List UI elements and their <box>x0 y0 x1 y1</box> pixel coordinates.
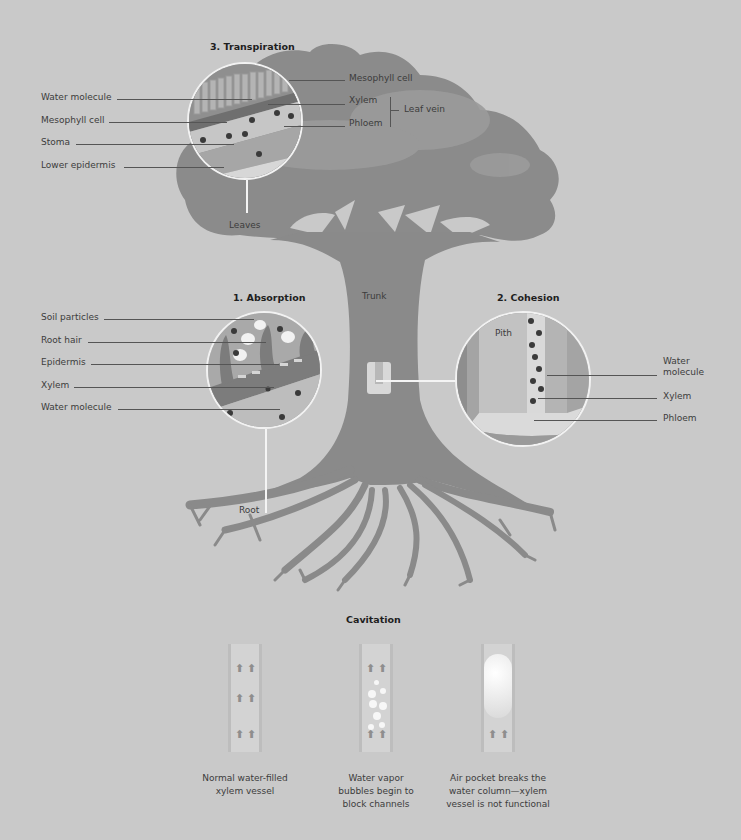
label-mesophyll-cell-right: Mesophyll cell <box>349 73 413 84</box>
label-water-molecule-t: Water molecule <box>41 92 111 103</box>
label-xylem-a: Xylem <box>41 380 69 391</box>
air-pocket <box>484 654 512 718</box>
transpiration-magnifier <box>187 62 303 180</box>
arrow-up-icon: ⬆ <box>378 728 387 741</box>
label-water-molecule-a: Water molecule <box>41 402 111 413</box>
leader-line <box>538 398 657 399</box>
cohesion-magnifier <box>455 311 591 447</box>
leader-line <box>118 409 280 410</box>
caption-line: vessel is not functional <box>433 798 563 811</box>
label-water-molecule-c: Water molecule <box>663 356 703 378</box>
label-xylem-t: Xylem <box>349 95 377 106</box>
label-mesophyll-cell-left: Mesophyll cell <box>41 115 105 126</box>
label-water-molecule-text: Water molecule <box>663 356 703 378</box>
label-leaves: Leaves <box>229 220 260 231</box>
label-lower-epidermis: Lower epidermis <box>41 160 115 171</box>
leader-line <box>74 387 274 388</box>
arrow-up-icon: ⬆ <box>366 728 375 741</box>
label-xylem-c: Xylem <box>663 391 691 402</box>
cohesion-connector-line <box>376 380 456 382</box>
leader-line <box>117 99 252 100</box>
arrow-up-icon: ⬆ <box>378 662 387 675</box>
leader-line <box>76 144 234 145</box>
caption-air-pocket: Air pocket breaks the water column—xylem… <box>433 772 563 811</box>
leader-line <box>289 80 345 81</box>
label-soil-particles: Soil particles <box>41 312 99 323</box>
absorption-title: 1. Absorption <box>233 292 305 303</box>
arrow-up-icon: ⬆ <box>235 662 244 675</box>
caption-line: water column—xylem <box>433 785 563 798</box>
leader-line <box>268 104 345 105</box>
vapor-bubble <box>379 702 387 710</box>
label-stoma: Stoma <box>41 137 70 148</box>
leader-line <box>104 319 254 320</box>
leader-line <box>534 420 657 421</box>
arrow-up-icon: ⬆ <box>247 692 256 705</box>
cavitation-title: Cavitation <box>346 614 401 625</box>
root-cross-section <box>208 313 322 429</box>
vapor-bubble <box>369 700 377 708</box>
transpiration-title: 3. Transpiration <box>210 41 295 52</box>
label-leaf-vein: Leaf vein <box>404 104 445 115</box>
arrow-up-icon: ⬆ <box>488 728 497 741</box>
label-phloem-c: Phloem <box>663 413 696 424</box>
trunk-cross-section <box>457 313 591 447</box>
arrow-up-icon: ⬆ <box>247 728 256 741</box>
leader-line <box>124 167 224 168</box>
vapor-bubble <box>368 690 376 698</box>
leader-line <box>88 342 266 343</box>
leader-line <box>91 364 279 365</box>
label-phloem-t: Phloem <box>349 118 382 129</box>
leader-line <box>390 110 399 111</box>
xylem-vessel-bubbles: ⬆ ⬆ ⬆ ⬆ <box>359 644 393 752</box>
caption-bubbles: Water vapor bubbles begin to block chann… <box>311 772 441 811</box>
leader-line <box>109 122 227 123</box>
label-pith: Pith <box>495 328 512 339</box>
xylem-vessel-air-pocket: ⬆ ⬆ <box>481 644 515 752</box>
arrow-up-icon: ⬆ <box>366 662 375 675</box>
arrow-up-icon: ⬆ <box>247 662 256 675</box>
vapor-bubble <box>380 688 386 694</box>
arrow-up-icon: ⬆ <box>500 728 509 741</box>
xylem-vessel-normal: ⬆ ⬆ ⬆ ⬆ ⬆ ⬆ <box>228 644 262 752</box>
arrow-up-icon: ⬆ <box>235 692 244 705</box>
leader-line <box>284 126 345 127</box>
vapor-bubble <box>373 712 381 720</box>
caption-line: Normal water-filled <box>180 772 310 785</box>
caption-normal: Normal water-filled xylem vessel <box>180 772 310 798</box>
caption-line: Air pocket breaks the <box>433 772 563 785</box>
vapor-bubble <box>374 680 379 685</box>
label-root-hair: Root hair <box>41 335 82 346</box>
root-callout-line <box>265 429 267 513</box>
leaves-callout-line <box>246 180 248 213</box>
label-epidermis: Epidermis <box>41 357 86 368</box>
caption-line: bubbles begin to <box>311 785 441 798</box>
label-root: Root <box>239 505 259 516</box>
cohesion-title: 2. Cohesion <box>497 292 559 303</box>
absorption-magnifier <box>206 311 322 429</box>
caption-line: block channels <box>311 798 441 811</box>
arrow-up-icon: ⬆ <box>235 728 244 741</box>
leaf-vein-bracket <box>390 97 391 127</box>
leader-line <box>547 375 657 376</box>
caption-line: xylem vessel <box>180 785 310 798</box>
caption-line: Water vapor <box>311 772 441 785</box>
label-trunk: Trunk <box>362 291 387 302</box>
